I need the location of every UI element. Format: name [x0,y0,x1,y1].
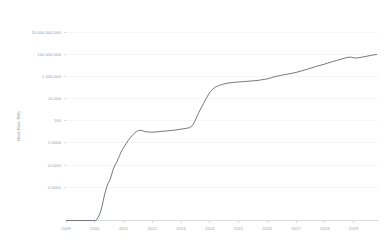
y-tick-label: 0.0001 [48,185,62,190]
x-tick-label: 2018 [320,226,330,231]
y-tick-label: 10,000,000,000 [31,30,61,35]
y-tick-label: 10,000 [48,96,62,101]
x-tick-label: 2012 [148,226,158,231]
x-tick-label: 2014 [205,226,215,231]
hash-rate-chart: 10,000,000,000100,000,0001,000,00010,000… [0,0,389,252]
y-axis-title: Hash Rate TH/s [16,111,21,141]
x-axis-ticks: 2009201020112012201320142015201620172018… [61,221,359,231]
x-tick-label: 2011 [119,226,129,231]
y-tick-label: 1,000,000 [42,74,62,79]
x-tick-label: 2015 [234,226,244,231]
y-tick-label: 100 [54,118,62,123]
chart-canvas: 10,000,000,000100,000,0001,000,00010,000… [0,0,389,252]
x-tick-label: 2017 [291,226,301,231]
y-tick-label: 1.0000 [48,140,62,145]
hash-rate-line [67,55,377,221]
y-tick-label: 0.0100 [48,163,62,168]
y-axis-ticks: 10,000,000,000100,000,0001,000,00010,000… [31,30,66,190]
x-tick-label: 2013 [176,226,186,231]
x-tick-label: 2010 [90,226,100,231]
grid-lines [66,32,378,187]
x-tick-label: 2016 [263,226,273,231]
y-tick-label: 100,000,000 [37,52,61,57]
x-tick-label: 2019 [349,226,359,231]
x-tick-label: 2009 [61,226,71,231]
